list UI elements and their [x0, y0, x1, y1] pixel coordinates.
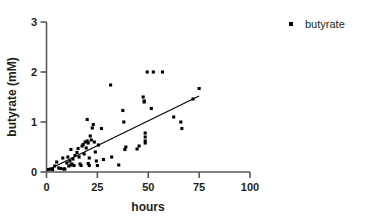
- x-tick-label: 25: [91, 181, 103, 193]
- data-point: [152, 70, 155, 73]
- data-point: [61, 156, 64, 159]
- data-point: [94, 150, 97, 153]
- y-axis-tick-labels: 0123: [31, 16, 37, 178]
- data-point: [66, 155, 69, 158]
- data-point: [144, 141, 147, 144]
- legend-label-butyrate: butyrate: [305, 18, 345, 30]
- data-point: [88, 164, 91, 167]
- data-point: [150, 107, 153, 110]
- data-point: [179, 120, 182, 123]
- data-point: [109, 83, 112, 86]
- data-point: [161, 70, 164, 73]
- data-point: [96, 164, 99, 167]
- chart-figure: 0123 0255075100 hours butyrate (mM) buty…: [0, 0, 371, 220]
- regression-line: [48, 96, 200, 170]
- data-point: [76, 147, 79, 150]
- data-point: [121, 109, 124, 112]
- scatter-plot-svg: 0123 0255075100 hours butyrate (mM) buty…: [0, 0, 371, 220]
- data-point: [180, 127, 183, 130]
- data-point: [144, 131, 147, 134]
- data-points-group: [47, 70, 201, 171]
- y-tick-label: 0: [31, 166, 37, 178]
- data-point: [102, 158, 105, 161]
- data-point: [198, 87, 201, 90]
- x-tick-label: 0: [43, 181, 49, 193]
- data-point: [144, 135, 147, 138]
- data-point: [146, 70, 149, 73]
- data-point: [172, 115, 175, 118]
- data-point: [78, 155, 81, 158]
- y-axis-ticks: [41, 22, 47, 172]
- x-tick-label: 50: [142, 181, 154, 193]
- data-point: [89, 134, 92, 137]
- data-point: [95, 159, 98, 162]
- data-point: [92, 123, 95, 126]
- data-point: [124, 145, 127, 148]
- x-tick-label: 75: [193, 181, 205, 193]
- data-point: [88, 156, 91, 159]
- data-point: [87, 141, 90, 144]
- legend: butyrate: [289, 18, 345, 30]
- data-point: [55, 160, 58, 163]
- y-axis-title: butyrate (mM): [5, 57, 19, 136]
- data-point: [91, 126, 94, 129]
- data-point: [117, 163, 120, 166]
- data-point: [93, 140, 96, 143]
- data-point: [142, 95, 145, 98]
- data-point: [136, 147, 139, 150]
- data-point: [143, 99, 146, 102]
- x-axis-tick-labels: 0255075100: [43, 181, 259, 193]
- data-point: [110, 155, 113, 158]
- y-tick-label: 3: [31, 16, 37, 28]
- data-point: [90, 138, 93, 141]
- y-tick-label: 2: [31, 66, 37, 78]
- data-point: [72, 164, 75, 167]
- x-tick-label: 100: [241, 181, 259, 193]
- data-point: [80, 164, 83, 167]
- legend-marker-butyrate: [289, 22, 293, 26]
- x-axis-ticks: [47, 172, 251, 178]
- data-point: [85, 146, 88, 149]
- data-point: [100, 127, 103, 130]
- x-axis-title: hours: [131, 200, 165, 214]
- data-point: [65, 161, 68, 164]
- data-point: [122, 120, 125, 123]
- data-point: [63, 167, 66, 170]
- data-point: [75, 151, 78, 154]
- data-point: [138, 144, 141, 147]
- y-tick-label: 1: [31, 116, 37, 128]
- data-point: [69, 148, 72, 151]
- data-point: [59, 167, 62, 170]
- data-point: [86, 118, 89, 121]
